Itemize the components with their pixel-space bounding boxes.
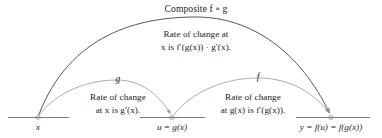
- outer-rate-line1: Rate of change: [225, 92, 281, 104]
- inner-rate-line2: at x is g′(x).: [96, 105, 141, 117]
- axis-label-u: u = g(x): [157, 122, 187, 133]
- outer-rate-line2: at g(x) is f′(g(x)).: [221, 105, 286, 117]
- number-line-intermediate: [140, 116, 205, 119]
- composite-rate-line1: Rate of change at: [164, 29, 229, 41]
- number-line-range: [296, 116, 370, 119]
- axis-label-y: y = f(u) = f(g(x)): [300, 122, 362, 133]
- number-line-domain: [8, 116, 69, 119]
- diagram-vector-layer: [0, 0, 382, 138]
- inner-rate-line1: Rate of change: [90, 92, 146, 104]
- composite-title: Composite f ∘ g: [165, 3, 228, 14]
- composite-rate-line2: x is f′(g(x)) · g′(x).: [161, 42, 231, 54]
- chain-rule-diagram: Composite f ∘ g Rate of change at x is f…: [0, 0, 382, 138]
- arc-label-g: g: [116, 73, 121, 84]
- axis-label-x: x: [36, 122, 40, 133]
- arc-label-f: f: [257, 71, 260, 82]
